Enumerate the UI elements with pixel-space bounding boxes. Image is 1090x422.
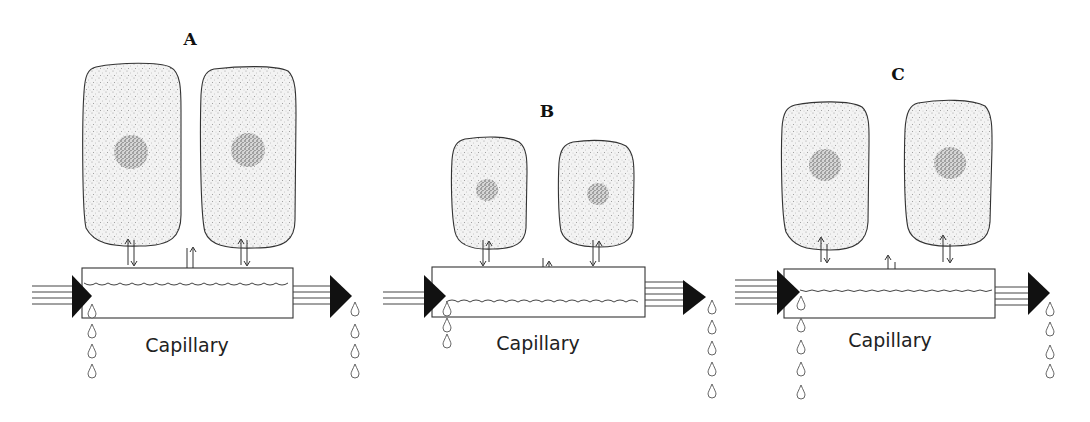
droplet-icon <box>443 318 451 332</box>
capillary-vessel <box>82 268 293 318</box>
droplet-icon <box>88 364 96 378</box>
droplet-icon <box>797 362 805 376</box>
droplet-icon <box>1046 302 1054 316</box>
nucleus <box>587 183 609 205</box>
droplet-icon <box>351 364 359 378</box>
nucleus <box>114 135 148 169</box>
droplet-icon <box>708 362 716 376</box>
inflow-lines <box>735 280 779 304</box>
flow-triangle-icon <box>330 275 352 318</box>
droplet-icon <box>1046 345 1054 359</box>
droplet-icon <box>797 318 805 332</box>
droplet-icon <box>1046 364 1054 378</box>
capillary-exchange-diagram: A <box>0 0 1090 422</box>
outflow-lines <box>995 287 1030 305</box>
outflow-lines <box>293 286 332 304</box>
flow-triangle-icon <box>683 280 706 315</box>
droplet-icon <box>797 340 805 354</box>
capillary-label: Capillary <box>848 329 932 351</box>
droplet-icon <box>797 385 805 399</box>
nucleus <box>934 147 966 179</box>
capillary-label: Capillary <box>496 332 580 354</box>
droplet-icon <box>708 384 716 398</box>
droplets-right <box>708 300 716 398</box>
droplet-icon <box>351 302 359 316</box>
panel-label-b: B <box>540 101 554 121</box>
panel-label-a: A <box>182 29 197 49</box>
droplet-icon <box>351 324 359 338</box>
capillary-vessel <box>432 267 645 317</box>
panel-b: B <box>383 101 716 398</box>
droplet-icon <box>708 341 716 355</box>
droplet-icon <box>88 344 96 358</box>
capillary-label: Capillary <box>145 334 229 356</box>
inflow-lines <box>32 286 74 304</box>
droplet-icon <box>708 320 716 334</box>
nucleus <box>809 149 841 181</box>
droplet-icon <box>708 300 716 314</box>
droplets-right <box>351 302 359 378</box>
panel-label-c: C <box>891 64 905 84</box>
capillary-vessel <box>784 269 995 318</box>
droplet-icon <box>1046 322 1054 336</box>
panel-a: A <box>32 29 359 378</box>
droplet-icon <box>88 324 96 338</box>
droplet-icon <box>351 344 359 358</box>
inflow-lines <box>383 292 426 304</box>
panel-c: C <box>735 64 1054 399</box>
nucleus <box>476 179 498 201</box>
droplets-left <box>443 302 451 348</box>
droplet-icon <box>443 334 451 348</box>
nucleus <box>231 133 265 167</box>
droplets-right <box>1046 302 1054 378</box>
droplets-left <box>88 304 96 378</box>
outflow-lines <box>645 282 685 306</box>
